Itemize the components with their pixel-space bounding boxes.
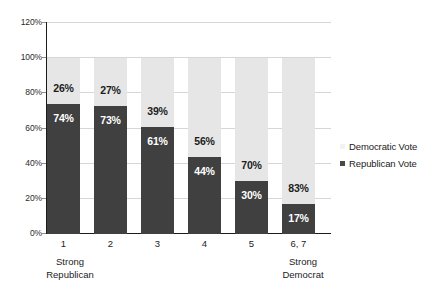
y-axis: 120%100%80%60%40%20%0% bbox=[0, 0, 42, 298]
y-tick-label: 100% bbox=[2, 52, 42, 62]
x-tick-label: 6, 7 bbox=[282, 238, 315, 249]
legend-swatch-icon bbox=[340, 161, 345, 166]
bar-group[interactable]: 39%61% bbox=[141, 58, 174, 234]
x-tick-label: 2 bbox=[94, 238, 127, 249]
bars-layer: 26%74%27%73%39%61%56%44%70%30%83%17% bbox=[47, 22, 331, 234]
legend-label: Democratic Vote bbox=[349, 141, 417, 152]
bar-segment-democratic[interactable] bbox=[94, 58, 127, 105]
legend-label: Republican Vote bbox=[349, 158, 417, 169]
plot-area: 26%74%27%73%39%61%56%44%70%30%83%17% bbox=[47, 22, 331, 234]
legend-item[interactable]: Republican Vote bbox=[340, 155, 438, 172]
chart-legend: Democratic VoteRepublican Vote bbox=[340, 138, 438, 172]
bar-label-democratic: 83% bbox=[282, 182, 315, 194]
endcap-right-line2: Democrat bbox=[248, 269, 358, 282]
bar-label-democratic: 26% bbox=[47, 82, 80, 94]
y-tick-label: 80% bbox=[2, 87, 42, 97]
bar-group[interactable]: 70%30% bbox=[235, 58, 268, 234]
bar-label-democratic: 27% bbox=[94, 84, 127, 96]
endcap-right-line1: Strong bbox=[248, 256, 358, 269]
bar-label-republican: 30% bbox=[235, 189, 268, 201]
bar-group[interactable]: 27%73% bbox=[94, 58, 127, 234]
legend-item[interactable]: Democratic Vote bbox=[340, 138, 438, 155]
bar-label-republican: 73% bbox=[94, 114, 127, 126]
endcap-left-line2: Republican bbox=[15, 269, 125, 282]
bar-group[interactable]: 56%44% bbox=[188, 58, 221, 234]
bar-label-republican: 61% bbox=[141, 135, 174, 147]
y-tick-label: 0% bbox=[2, 228, 42, 238]
bar-label-republican: 17% bbox=[282, 212, 315, 224]
y-tick-label: 40% bbox=[2, 158, 42, 168]
y-tick-label: 120% bbox=[2, 17, 42, 27]
x-axis: 123456, 7 bbox=[47, 238, 331, 254]
bar-label-republican: 74% bbox=[47, 112, 80, 124]
bar-group[interactable]: 83%17% bbox=[282, 58, 315, 234]
x-tick-label: 5 bbox=[235, 238, 268, 249]
x-axis-endcap-democrat: Strong Democrat bbox=[248, 256, 358, 281]
bar-label-democratic: 56% bbox=[188, 135, 221, 147]
x-tick-label: 1 bbox=[47, 238, 80, 249]
stacked-bar-chart: 120%100%80%60%40%20%0% 26%74%27%73%39%61… bbox=[0, 0, 440, 298]
x-tick-label: 4 bbox=[188, 238, 221, 249]
x-tick-label: 3 bbox=[141, 238, 174, 249]
bar-label-democratic: 70% bbox=[235, 159, 268, 171]
bar-label-republican: 44% bbox=[188, 165, 221, 177]
y-tick-label: 60% bbox=[2, 123, 42, 133]
bar-label-democratic: 39% bbox=[141, 105, 174, 117]
bar-group[interactable]: 26%74% bbox=[47, 58, 80, 234]
endcap-left-line1: Strong bbox=[15, 256, 125, 269]
x-axis-endcap-republican: Strong Republican bbox=[15, 256, 125, 281]
legend-swatch-icon bbox=[340, 144, 345, 149]
y-tick-label: 20% bbox=[2, 193, 42, 203]
